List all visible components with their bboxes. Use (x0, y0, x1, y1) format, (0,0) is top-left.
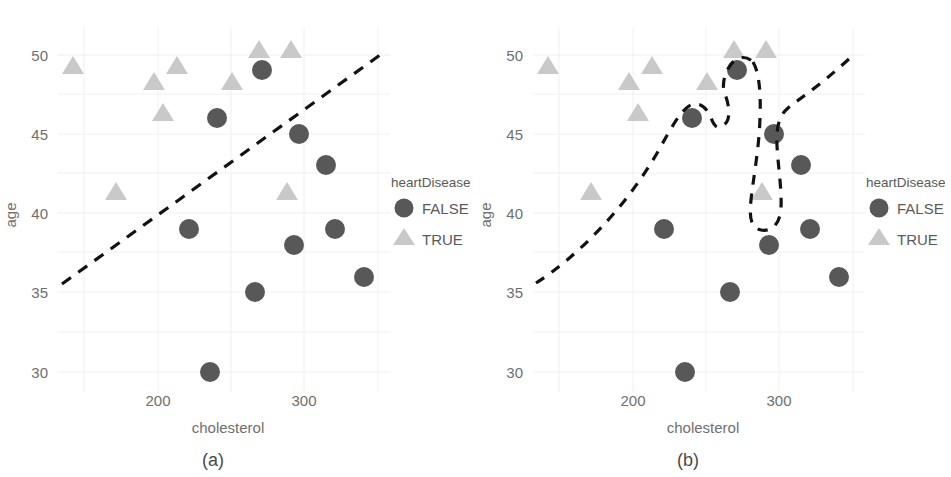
panel-b: 50 45 40 35 30 age 200 300 cholesterol (475, 0, 950, 477)
legend-title: heartDisease (866, 175, 946, 190)
data-point-triangle (152, 103, 174, 121)
x-tick-label: 300 (766, 392, 791, 409)
gridlines-b (533, 28, 865, 392)
data-point-triangle (276, 182, 298, 200)
data-point-triangle (696, 72, 718, 90)
x-axis-ticks-a: 200 300 (145, 392, 316, 409)
data-point-circle (289, 124, 309, 144)
data-point-circle (200, 362, 220, 382)
legend-label-true: TRUE (897, 231, 938, 248)
y-axis-title: age (477, 202, 494, 227)
data-point-circle (759, 235, 779, 255)
data-point-triangle (221, 72, 243, 90)
x-tick-label: 300 (291, 392, 316, 409)
y-axis-ticks-b: 50 45 40 35 30 (506, 47, 523, 381)
y-axis-title: age (2, 202, 19, 227)
data-point-triangle (166, 56, 188, 74)
data-point-circle (252, 60, 272, 80)
panel-b-plot: 50 45 40 35 30 age 200 300 cholesterol (475, 0, 951, 477)
data-point-circle (791, 155, 811, 175)
data-point-circle (720, 282, 740, 302)
y-tick-label: 45 (506, 126, 523, 143)
decision-boundary-left-arm (536, 58, 753, 284)
y-tick-label: 30 (31, 364, 48, 381)
y-tick-label: 35 (31, 284, 48, 301)
data-point-circle (207, 108, 227, 128)
data-point-circle (764, 124, 784, 144)
decision-boundary-loop (750, 58, 850, 230)
y-tick-label: 40 (506, 205, 523, 222)
figure-container: 50 45 40 35 30 age 200 300 cholesterol (0, 0, 951, 477)
data-point-circle (245, 282, 265, 302)
legend-marker-circle (870, 199, 889, 218)
data-point-triangle (280, 40, 302, 58)
y-tick-label: 50 (506, 47, 523, 64)
y-tick-label: 35 (506, 284, 523, 301)
legend-b: heartDisease FALSE TRUE (866, 175, 946, 248)
series-false-markers-a (179, 60, 374, 382)
x-axis-title: cholesterol (192, 419, 265, 436)
x-tick-label: 200 (620, 392, 645, 409)
y-axis-ticks-a: 50 45 40 35 30 (31, 47, 48, 381)
data-point-triangle (580, 182, 602, 200)
data-point-circle (829, 267, 849, 287)
data-point-triangle (641, 56, 663, 74)
panel-a-plot: 50 45 40 35 30 age 200 300 cholesterol (0, 0, 475, 477)
y-tick-label: 45 (31, 126, 48, 143)
legend-marker-triangle (393, 228, 415, 245)
data-point-circle (654, 219, 674, 239)
y-tick-label: 30 (506, 364, 523, 381)
data-point-circle (675, 362, 695, 382)
data-point-circle (354, 267, 374, 287)
data-point-triangle (723, 40, 745, 58)
data-point-circle (316, 155, 336, 175)
data-point-triangle (618, 72, 640, 90)
legend-marker-circle (395, 199, 414, 218)
y-tick-label: 40 (31, 205, 48, 222)
panel-caption-a: (a) (202, 450, 224, 470)
data-point-circle (800, 219, 820, 239)
data-point-circle (325, 219, 345, 239)
data-point-triangle (143, 72, 165, 90)
legend-label-true: TRUE (422, 231, 463, 248)
x-tick-label: 200 (145, 392, 170, 409)
legend-label-false: FALSE (897, 200, 944, 217)
panel-a: 50 45 40 35 30 age 200 300 cholesterol (0, 0, 475, 477)
data-point-triangle (627, 103, 649, 121)
data-point-circle (284, 235, 304, 255)
legend-a: heartDisease FALSE TRUE (391, 175, 471, 248)
data-point-triangle (62, 56, 84, 74)
data-point-triangle (755, 40, 777, 58)
data-point-triangle (105, 182, 127, 200)
data-point-circle (179, 219, 199, 239)
data-point-triangle (537, 56, 559, 74)
y-tick-label: 50 (31, 47, 48, 64)
panel-caption-b: (b) (677, 450, 699, 470)
legend-marker-triangle (868, 228, 890, 245)
x-axis-title: cholesterol (667, 419, 740, 436)
data-point-triangle (248, 40, 270, 58)
x-axis-ticks-b: 200 300 (620, 392, 791, 409)
legend-label-false: FALSE (422, 200, 469, 217)
legend-title: heartDisease (391, 175, 471, 190)
